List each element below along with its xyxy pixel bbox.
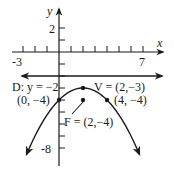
point-4-neg4 — [105, 98, 109, 102]
x-axis-ticks — [23, 46, 143, 52]
point-label-4-neg4: (4, −4) — [114, 93, 147, 107]
focus-label: F = (2,−4) — [64, 115, 113, 129]
focus-pointer — [72, 102, 83, 114]
focus-point — [81, 98, 85, 102]
vertex-label: V = (2,−3) — [94, 80, 145, 94]
y-axis-ticks — [59, 28, 65, 148]
y-tick-label-2: 2 — [49, 22, 55, 36]
point-0-neg4 — [57, 98, 61, 102]
x-tick-label-7: 7 — [139, 55, 145, 69]
vertex-point — [81, 86, 85, 90]
parabola-graph: x y 2 -3 7 -8 D: y = −2 V = (2,−3) F = (… — [0, 0, 174, 169]
y-tick-label-neg8: -8 — [41, 142, 51, 156]
y-axis-label: y — [46, 4, 53, 18]
x-axis-label: x — [156, 36, 163, 50]
directrix-label: D: y = −2 — [12, 80, 59, 94]
point-label-0-neg4: (0, −4) — [17, 93, 50, 107]
x-tick-label-neg3: -3 — [12, 55, 22, 69]
